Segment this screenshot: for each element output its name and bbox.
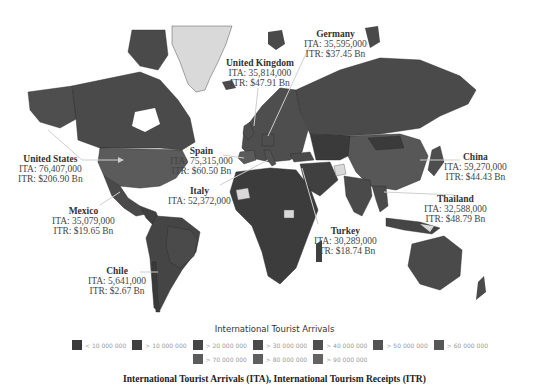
annotation-ita: ITA: 35,079,000 bbox=[52, 216, 115, 226]
annotation-country: United States bbox=[18, 154, 83, 164]
country-australia bbox=[408, 236, 462, 290]
annotation-thailand: Thailand ITA: 32,588,000 ITR: $48.79 Bn bbox=[424, 194, 487, 224]
annotation-turkey: Turkey ITA: 30,289,000 ITR: $18.74 Bn bbox=[314, 226, 377, 256]
annotation-germany: Germany ITA: 35,595,000 ITR: $37.45 Bn bbox=[304, 29, 367, 59]
annotation-itr: ITR: $19.65 Bn bbox=[52, 226, 115, 236]
legend-item[interactable]: > 10 000 000 bbox=[132, 340, 186, 350]
legend-swatch bbox=[253, 354, 263, 364]
annotation-country: United Kingdom bbox=[226, 58, 294, 68]
legend-swatch bbox=[193, 354, 203, 364]
country-turkey[interactable] bbox=[290, 152, 314, 162]
legend-item[interactable]: > 70 000 000 bbox=[193, 354, 247, 364]
annotation-spain: Spain ITA: 75,315,000 ITR: $60.50 Bn bbox=[170, 146, 233, 176]
island-novaya bbox=[365, 26, 380, 48]
annotation-itr: ITR: $2.67 Bn bbox=[88, 286, 146, 296]
legend-swatch bbox=[193, 340, 203, 350]
legend-swatch bbox=[313, 340, 323, 350]
annotation-itr: ITR: $18.74 Bn bbox=[314, 246, 377, 256]
annotation-itr: ITR: $44.43 Bn bbox=[444, 172, 507, 182]
annotation-country: Thailand bbox=[424, 194, 487, 204]
annotation-united-states: United States ITA: 76,407,000 ITR: $206.… bbox=[18, 154, 83, 184]
legend-item[interactable]: > 20 000 000 bbox=[193, 340, 247, 350]
legend-label: > 50 000 000 bbox=[386, 342, 427, 349]
legend-swatch bbox=[313, 354, 323, 364]
annotation-ita: ITA: 76,407,000 bbox=[18, 164, 83, 174]
country-alaska bbox=[28, 86, 78, 128]
annotation-itr: ITR: $206.90 Bn bbox=[18, 174, 83, 184]
annotation-mexico: Mexico ITA: 35,079,000 ITR: $19.65 Bn bbox=[52, 206, 115, 236]
annotation-country: Chile bbox=[88, 266, 146, 276]
legend-swatch bbox=[373, 340, 383, 350]
annotation-ita: ITA: 32,588,000 bbox=[424, 204, 487, 214]
legend-swatch bbox=[72, 340, 82, 350]
annotation-united-kingdom: United Kingdom ITA: 35,814,000 ITR: $47.… bbox=[226, 58, 294, 88]
island-svalbard bbox=[268, 30, 285, 50]
legend-label: > 70 000 000 bbox=[206, 356, 247, 363]
country-russia[interactable] bbox=[296, 58, 476, 136]
legend-swatch bbox=[253, 340, 263, 350]
annotation-country: China bbox=[444, 152, 507, 162]
annotation-country: Italy bbox=[168, 186, 231, 196]
country-thailand[interactable] bbox=[372, 186, 388, 212]
world-map: United States ITA: 76,407,000 ITR: $206.… bbox=[0, 0, 549, 320]
annotation-chile: Chile ITA: 5,641,000 ITR: $2.67 Bn bbox=[88, 266, 146, 296]
chart-title: International Tourist Arrivals (ITA), In… bbox=[0, 374, 549, 384]
annotation-itr: ITR: $47.91 Bn bbox=[226, 78, 294, 88]
legend: < 10 000 000 > 10 000 000 > 20 000 000 >… bbox=[60, 340, 500, 364]
country-south-sudan bbox=[284, 210, 294, 218]
legend-title: International Tourist Arrivals bbox=[0, 324, 549, 334]
legend-item[interactable]: > 80 000 000 bbox=[253, 354, 307, 364]
legend-item[interactable]: > 90 000 000 bbox=[313, 354, 367, 364]
legend-label: > 20 000 000 bbox=[206, 342, 247, 349]
country-afghanistan bbox=[334, 164, 346, 176]
annotation-itr: ITR: $37.45 Bn bbox=[304, 49, 367, 59]
annotation-country: Spain bbox=[170, 146, 233, 156]
legend-label: > 60 000 000 bbox=[447, 342, 488, 349]
legend-label: < 10 000 000 bbox=[85, 342, 126, 349]
legend-label: > 40 000 000 bbox=[326, 342, 367, 349]
annotation-china: China ITA: 59,270,000 ITR: $44.43 Bn bbox=[444, 152, 507, 182]
country-canada[interactable] bbox=[72, 72, 195, 150]
legend-label: > 90 000 000 bbox=[326, 356, 367, 363]
country-spain[interactable] bbox=[238, 150, 256, 164]
annotation-ita: ITA: 35,814,000 bbox=[226, 68, 294, 78]
annotation-itr: ITR: $48.79 Bn bbox=[424, 214, 487, 224]
legend-item[interactable]: < 10 000 000 bbox=[72, 340, 126, 350]
annotation-ita: ITA: 5,641,000 bbox=[88, 276, 146, 286]
annotation-ita: ITA: 59,270,000 bbox=[444, 162, 507, 172]
country-india bbox=[344, 176, 372, 216]
annotation-ita: ITA: 52,372,000 bbox=[168, 196, 231, 206]
legend-label: > 10 000 000 bbox=[145, 342, 186, 349]
country-canada-islands bbox=[128, 30, 168, 70]
legend-swatch bbox=[434, 340, 444, 350]
annotation-itr: ITR: $60.50 Bn bbox=[170, 166, 233, 176]
country-western-sahara bbox=[236, 188, 250, 200]
legend-item[interactable]: > 40 000 000 bbox=[313, 340, 367, 350]
annotation-country: Turkey bbox=[314, 226, 377, 236]
annotation-ita: ITA: 75,315,000 bbox=[170, 156, 233, 166]
annotation-ita: ITA: 35,595,000 bbox=[304, 39, 367, 49]
country-japan bbox=[428, 146, 444, 176]
legend-label: > 80 000 000 bbox=[266, 356, 307, 363]
legend-label: > 30 000 000 bbox=[266, 342, 307, 349]
annotation-country: Germany bbox=[304, 29, 367, 39]
legend-item[interactable]: > 50 000 000 bbox=[373, 340, 427, 350]
annotation-country: Mexico bbox=[52, 206, 115, 216]
legend-item[interactable]: > 60 000 000 bbox=[434, 340, 488, 350]
region-africa bbox=[230, 168, 318, 284]
country-new-zealand bbox=[476, 276, 486, 300]
annotation-italy: Italy ITA: 52,372,000 bbox=[168, 186, 231, 206]
legend-item[interactable]: > 30 000 000 bbox=[253, 340, 307, 350]
legend-swatch bbox=[132, 340, 142, 350]
annotation-ita: ITA: 30,289,000 bbox=[314, 236, 377, 246]
